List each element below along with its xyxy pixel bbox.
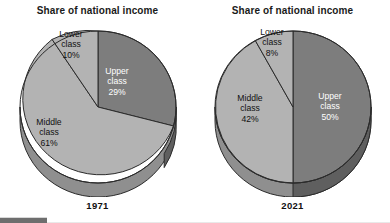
year-label-1971: 1971 [0,200,195,211]
year-label-2021: 2021 [195,200,390,211]
bottom-rule [47,222,390,223]
pie-2021: Upper class 50% Middle class 42% Lower c… [211,21,375,197]
chart-panel-1971: Share of national income [0,0,195,223]
chart-title-1971: Share of national income [0,5,195,16]
bottom-progress-bar [0,217,47,223]
chart-title-2021: Share of national income [195,5,390,16]
pie-chart-figure: Share of national income [0,0,390,223]
chart-panel-2021: Share of national income Upper class [195,0,390,223]
pie-1971: Upper class 29% Middle class 61% Lower c… [16,21,180,197]
